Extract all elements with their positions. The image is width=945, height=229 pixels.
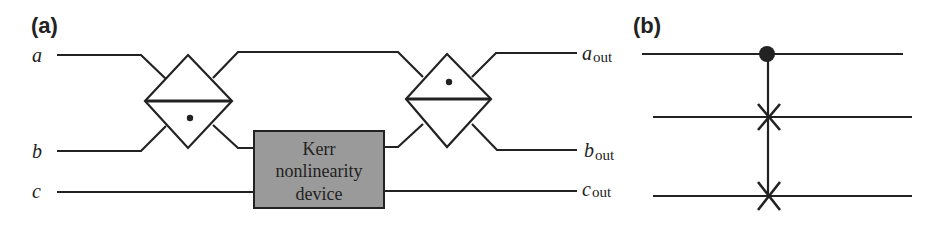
device-line-2: nonlinearity: [276, 161, 363, 181]
wire-upper-arm: [213, 52, 423, 78]
wire-lower-arm: [213, 125, 255, 148]
device-line-3: device: [296, 184, 343, 204]
panel-b-label: (b): [633, 13, 661, 38]
wire-a-out: [472, 53, 577, 77]
panel-a-label: (a): [31, 13, 58, 38]
wire-device-to-bs2: [384, 124, 423, 147]
wire-b-out: [472, 124, 577, 150]
wire-b-in: [57, 126, 166, 151]
input-b-label: b: [32, 140, 42, 162]
control-dot-icon: [759, 46, 775, 62]
output-b-label: bout: [584, 139, 615, 163]
wire-a-in: [57, 55, 166, 79]
diagram-canvas: (a) a b c Kerr nonlinearity device aout …: [0, 0, 945, 229]
device-line-1: Kerr: [303, 139, 336, 159]
input-a-label: a: [32, 44, 42, 66]
kerr-nonlinearity-device: Kerr nonlinearity device: [254, 131, 384, 208]
output-c-label: cout: [582, 178, 612, 200]
phase-dot-icon: [446, 79, 452, 85]
beam-splitter-2: [406, 54, 491, 147]
phase-dot-icon: [187, 115, 193, 121]
input-c-label: c: [32, 180, 41, 202]
output-a-label: aout: [582, 42, 613, 65]
